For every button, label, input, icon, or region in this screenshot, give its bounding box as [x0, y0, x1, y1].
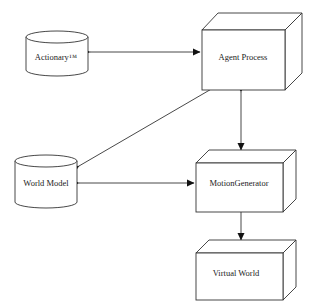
node-label-actionary: Actionary™ [35, 52, 77, 62]
node-motion-generator: MotionGenerator [196, 150, 296, 212]
node-agent-process: Agent Process [202, 13, 302, 90]
node-label-agent-process: Agent Process [219, 52, 268, 62]
edge-world-model-agent-process [79, 84, 220, 166]
node-label-virtual-world: Virtual World [213, 268, 260, 278]
architecture-diagram: Actionary™ Agent Process World Model Mot… [0, 0, 319, 301]
node-label-world-model: World Model [23, 178, 69, 188]
node-actionary: Actionary™ [26, 31, 88, 76]
node-virtual-world: Virtual World [196, 240, 296, 300]
node-label-motion-generator: MotionGenerator [209, 178, 268, 188]
node-world-model: World Model [15, 155, 77, 208]
